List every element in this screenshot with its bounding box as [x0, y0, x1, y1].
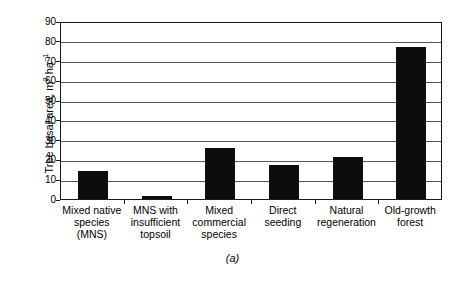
x-category-label-line: Mixed native: [60, 204, 124, 216]
x-category-label-line: forest: [378, 216, 442, 228]
plot-area: [60, 22, 442, 200]
bar: [269, 165, 299, 199]
x-category-label-line: commercial: [187, 216, 251, 228]
x-category-label-line: topsoil: [124, 228, 188, 240]
y-tick-label: 50: [30, 96, 56, 106]
y-tick-label: 30: [30, 136, 56, 146]
figure-panel-a: Tree basal area, m2 ha−1 010203040506070…: [0, 0, 465, 284]
y-tick-label: 80: [30, 37, 56, 47]
x-category-label-line: seeding: [251, 216, 315, 228]
y-tick-label: 60: [30, 76, 56, 86]
gridline: [61, 181, 441, 182]
gridline: [61, 42, 441, 43]
x-category-label-line: Old-growth: [378, 204, 442, 216]
y-tick-label: 40: [30, 116, 56, 126]
panel-caption: (a): [0, 252, 465, 264]
x-category-label-line: species (MNS): [60, 216, 124, 240]
bar: [205, 148, 235, 199]
y-tick-label: 90: [30, 17, 56, 27]
x-category-label: MNS withinsufficienttopsoil: [124, 204, 188, 240]
y-tick-label: 20: [30, 155, 56, 165]
gridline: [61, 121, 441, 122]
x-category-label-line: Mixed: [187, 204, 251, 216]
x-category-label: Naturalregeneration: [315, 204, 379, 228]
gridline: [61, 62, 441, 63]
y-tick-label: 70: [30, 57, 56, 67]
x-category-label: Mixed nativespecies (MNS): [60, 204, 124, 240]
bar: [396, 47, 426, 199]
x-axis-category-labels: Mixed nativespecies (MNS)MNS withinsuffi…: [60, 204, 442, 250]
gridline: [61, 82, 441, 83]
gridline: [61, 161, 441, 162]
bar: [78, 171, 108, 199]
x-category-label-line: insufficient: [124, 216, 188, 228]
y-tick-label: 0: [30, 195, 56, 205]
x-category-label-line: Natural: [315, 204, 379, 216]
x-category-label-line: species: [187, 228, 251, 240]
bar: [333, 157, 363, 199]
x-category-label-line: Direct: [251, 204, 315, 216]
gridline: [61, 102, 441, 103]
gridline: [61, 141, 441, 142]
x-category-label-line: MNS with: [124, 204, 188, 216]
x-category-label: Mixedcommercialspecies: [187, 204, 251, 240]
x-category-label-line: regeneration: [315, 216, 379, 228]
y-tick-label: 10: [30, 175, 56, 185]
y-axis-ticks: 0102030405060708090: [28, 22, 56, 200]
x-category-label: Old-growthforest: [378, 204, 442, 228]
x-category-label: Directseeding: [251, 204, 315, 228]
bar: [142, 196, 172, 199]
